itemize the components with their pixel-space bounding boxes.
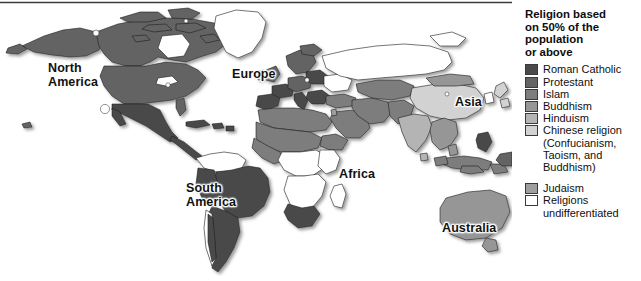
legend-item-islam: Islam (525, 88, 641, 100)
legend-swatch-religions-undifferentiated (525, 195, 538, 206)
legend-item-buddhism: Buddhism (525, 100, 641, 112)
legend-swatch-buddhism (525, 101, 538, 112)
map-canvas (0, 0, 512, 281)
world-religions-map-figure: North America South America Europe Afric… (0, 0, 641, 281)
legend-item-protestant: Protestant (525, 76, 641, 88)
legend-item-hinduism: Hinduism (525, 112, 641, 124)
legend-swatch-islam (525, 89, 538, 100)
legend-swatch-hinduism (525, 113, 538, 124)
legend-label-protestant: Protestant (543, 76, 593, 88)
legend-label-islam: Islam (543, 88, 569, 100)
legend-label-judaism: Judaism (543, 182, 584, 194)
legend-swatch-roman-catholic (525, 64, 538, 75)
legend-swatch-protestant (525, 77, 538, 88)
legend-label-roman-catholic: Roman Catholic (543, 63, 621, 75)
legend-title: Religion based on 50% of the population … (525, 8, 641, 58)
legend-item-chinese-religion: Chinese religion (Confucianism, Taoism, … (525, 124, 641, 173)
legend-label-chinese-religion: Chinese religion (Confucianism, Taoism, … (543, 124, 622, 173)
legend-label-hinduism: Hinduism (543, 112, 589, 124)
legend-spacer (525, 173, 641, 182)
legend-swatch-judaism (525, 183, 538, 194)
legend-label-buddhism: Buddhism (543, 100, 592, 112)
legend-item-judaism: Judaism (525, 182, 641, 194)
legend-primary-group: Roman Catholic Protestant Islam Buddhism… (525, 63, 641, 173)
map-legend: Religion based on 50% of the population … (525, 8, 641, 219)
legend-swatch-chinese-religion (525, 125, 538, 136)
legend-label-religions-undifferentiated: Religions undifferentiated (543, 194, 619, 218)
legend-item-roman-catholic: Roman Catholic (525, 63, 641, 75)
legend-item-religions-undifferentiated: Religions undifferentiated (525, 194, 641, 218)
legend-secondary-group: Judaism Religions undifferentiated (525, 182, 641, 219)
